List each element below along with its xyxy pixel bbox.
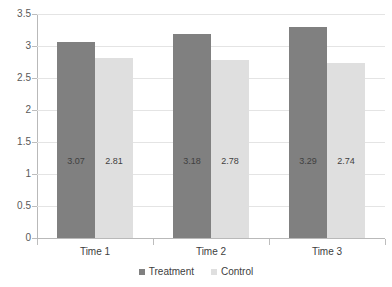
y-axis-tick-label: 2.5 — [1, 73, 31, 83]
y-axis-tick — [32, 206, 37, 207]
y-axis-tick — [32, 78, 37, 79]
x-axis-label: Time 3 — [269, 246, 385, 257]
bar-group-bars: 3.292.74 — [269, 14, 385, 238]
legend-label: Treatment — [149, 266, 194, 277]
x-axis-separator-tick — [153, 239, 154, 245]
bar-treatment-time-3: 3.29 — [289, 27, 327, 238]
bar-value-label: 2.74 — [327, 157, 365, 166]
x-axis-label: Time 1 — [37, 246, 153, 257]
bar-control-time-2: 2.78 — [211, 60, 249, 238]
chart-legend: TreatmentControl — [0, 266, 392, 277]
x-axis-separator-tick — [385, 239, 386, 245]
bar-value-label: 3.18 — [173, 157, 211, 166]
bar-group: 3.182.78 — [153, 14, 269, 238]
y-axis-tick — [32, 174, 37, 175]
bar-value-label: 3.07 — [57, 157, 95, 166]
plot-area: 3.072.813.182.783.292.74 — [37, 14, 385, 238]
y-axis-tick — [32, 14, 37, 15]
y-axis-labels: 00.511.522.533.5 — [0, 0, 31, 287]
y-axis-tick-label: 1 — [1, 169, 31, 179]
y-axis-tick-label: 3 — [1, 41, 31, 51]
x-axis-label: Time 2 — [153, 246, 269, 257]
bar-value-label: 2.78 — [211, 157, 249, 166]
bar-control-time-3: 2.74 — [327, 63, 365, 238]
y-axis-tick — [32, 142, 37, 143]
bar-control-time-1: 2.81 — [95, 58, 133, 238]
bar-value-label: 3.29 — [289, 157, 327, 166]
legend-swatch-icon — [139, 269, 145, 275]
bar-group: 3.072.81 — [37, 14, 153, 238]
bar-treatment-time-1: 3.07 — [57, 42, 95, 238]
bar-group: 3.292.74 — [269, 14, 385, 238]
y-axis-tick — [32, 110, 37, 111]
y-axis-tick-label: 0.5 — [1, 201, 31, 211]
legend-item-treatment[interactable]: Treatment — [139, 266, 194, 277]
y-axis-tick — [32, 238, 37, 239]
x-axis-separator-tick — [269, 239, 270, 245]
y-axis-tick-label: 1.5 — [1, 137, 31, 147]
legend-label: Control — [221, 266, 253, 277]
x-axis-separator-tick — [37, 239, 38, 245]
bar-chart: 00.511.522.533.5 3.072.813.182.783.292.7… — [0, 0, 392, 287]
gridline — [37, 238, 385, 239]
bar-treatment-time-2: 3.18 — [173, 34, 211, 238]
y-axis-tick-label: 0 — [1, 233, 31, 243]
legend-item-control[interactable]: Control — [211, 266, 253, 277]
bar-group-bars: 3.072.81 — [37, 14, 153, 238]
y-axis-tick — [32, 46, 37, 47]
bar-group-bars: 3.182.78 — [153, 14, 269, 238]
y-axis-tick-label: 3.5 — [1, 9, 31, 19]
y-axis-tick-label: 2 — [1, 105, 31, 115]
bar-value-label: 2.81 — [95, 157, 133, 166]
legend-swatch-icon — [211, 269, 217, 275]
